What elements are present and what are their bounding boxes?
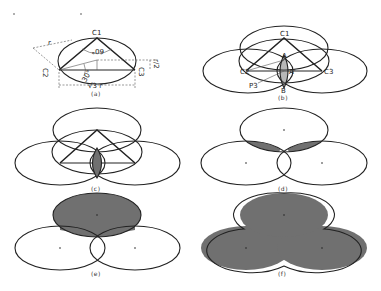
label-c1: C1: [92, 29, 101, 37]
center-top: [96, 214, 98, 216]
label-base: √3 r: [88, 82, 102, 90]
label-r: r: [48, 39, 51, 47]
speck: [80, 13, 81, 14]
center-left: [245, 247, 247, 249]
label-c1: C1: [280, 30, 289, 38]
speck: [13, 13, 14, 14]
caption-d: (d): [278, 185, 288, 192]
panel-d: (d): [201, 108, 367, 192]
caption-e: (e): [91, 270, 101, 277]
center-top: [283, 129, 285, 131]
caption-c: (c): [91, 185, 100, 192]
label-a-prime: A': [289, 68, 296, 76]
center-top: [283, 214, 285, 216]
label-60: 60°: [92, 47, 104, 55]
label-c2: C2: [240, 68, 249, 76]
panel-f: (f): [201, 193, 367, 277]
center-left: [59, 247, 61, 249]
label-a: A: [282, 52, 287, 60]
label-c3: C3: [324, 68, 333, 76]
panel-b: C1 C2 C3 A A' B P3 (b): [203, 26, 367, 101]
dash-r-line: [33, 48, 59, 70]
label-p3: P3: [249, 82, 258, 90]
panel-e: (e): [15, 193, 180, 277]
panel-a: C1 C2 C3 r 60° 30° r/2 √3 r (a): [33, 29, 160, 97]
center-right: [321, 247, 323, 249]
caption-f: (f): [278, 270, 286, 277]
caption-a: (a): [91, 90, 101, 97]
center-left: [245, 162, 247, 164]
caption-b: (b): [278, 94, 288, 101]
panel-c: (c): [15, 108, 180, 192]
center-right: [134, 247, 136, 249]
center-right: [321, 162, 323, 164]
label-c2: C2: [41, 68, 49, 77]
label-c3: C3: [137, 67, 145, 76]
label-half-r: r/2: [152, 59, 160, 69]
figure-canvas: C1 C2 C3 r 60° 30° r/2 √3 r (a) C1 C2 C3…: [0, 0, 381, 291]
